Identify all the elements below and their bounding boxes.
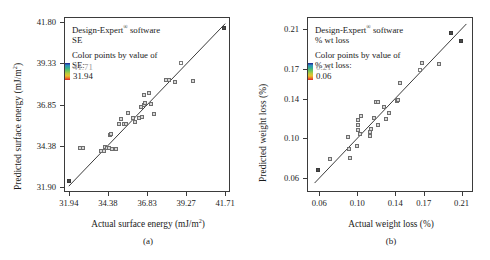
y-tick-label: 0.14: [267, 94, 299, 104]
y-tick-mark: [60, 105, 64, 106]
data-point: [356, 118, 360, 122]
data-point: [316, 168, 320, 172]
y-tick-mark: [60, 22, 64, 23]
x-tick-mark: [319, 192, 320, 196]
x-tick-mark: [186, 192, 187, 196]
data-point: [356, 123, 360, 127]
x-tick-label: 41.71: [205, 198, 245, 208]
data-point: [387, 111, 391, 115]
data-point: [347, 147, 351, 151]
data-point: [119, 117, 123, 121]
y-tick-mark: [303, 29, 307, 30]
x-tick-label: 0.06: [299, 198, 339, 208]
data-point: [459, 39, 463, 43]
x-tick-mark: [147, 192, 148, 196]
data-point: [173, 80, 177, 84]
x-tick-mark: [424, 192, 425, 196]
data-point: [382, 105, 386, 109]
data-point: [358, 132, 362, 136]
x-tick-mark: [69, 192, 70, 196]
data-point: [117, 122, 121, 126]
x-tick-label: 34.38: [88, 198, 128, 208]
y-tick-mark: [60, 187, 64, 188]
data-point: [109, 132, 113, 136]
data-point: [420, 61, 424, 65]
x-tick-mark: [395, 192, 396, 196]
x-tick-label: 0.10: [337, 198, 377, 208]
y-tick-label: 0.06: [267, 173, 299, 183]
x-tick-mark: [357, 192, 358, 196]
data-point: [398, 81, 402, 85]
x-tick-label: 0.21: [442, 198, 482, 208]
panel-a-fit-line: [0, 0, 245, 260]
x-tick-label: 0.17: [404, 198, 444, 208]
data-point: [143, 101, 147, 105]
data-point: [418, 68, 422, 72]
x-tick-label: 39.27: [166, 198, 206, 208]
x-tick-mark: [462, 192, 463, 196]
y-tick-mark: [60, 146, 64, 147]
data-point: [222, 26, 226, 30]
y-tick-mark: [303, 138, 307, 139]
data-point: [81, 146, 85, 150]
x-tick-mark: [108, 192, 109, 196]
data-point: [368, 134, 372, 138]
data-point: [114, 147, 118, 151]
data-point: [142, 93, 146, 97]
data-point: [133, 120, 137, 124]
data-point: [126, 111, 130, 115]
data-point: [384, 117, 388, 121]
y-tick-label: 36.85: [24, 100, 56, 110]
data-point: [191, 79, 195, 83]
data-point: [140, 115, 144, 119]
figure-container: Predicted surface energy (mJ/m2) Actual …: [0, 0, 490, 260]
data-point: [437, 62, 441, 66]
data-point: [179, 61, 183, 65]
y-tick-label: 31.90: [24, 182, 56, 192]
data-point: [355, 144, 359, 148]
x-tick-label: 36.83: [127, 198, 167, 208]
data-point: [124, 122, 128, 126]
data-point: [167, 78, 171, 82]
data-point: [376, 100, 380, 104]
data-point: [147, 91, 151, 95]
data-point: [376, 123, 380, 127]
data-point: [152, 112, 156, 116]
x-tick-mark: [225, 192, 226, 196]
data-point: [369, 127, 373, 131]
data-point: [346, 135, 350, 139]
data-point: [372, 116, 376, 120]
y-tick-label: 39.33: [24, 58, 56, 68]
data-point: [67, 179, 71, 183]
data-point: [149, 102, 153, 106]
data-point: [359, 114, 363, 118]
y-tick-mark: [60, 63, 64, 64]
data-point: [328, 157, 332, 161]
y-tick-label: 0.17: [267, 64, 299, 74]
y-tick-label: 0.10: [267, 133, 299, 143]
y-tick-mark: [303, 69, 307, 70]
panel-b: Predicted weight loss (%) Actual weight …: [245, 0, 490, 260]
data-point: [396, 98, 400, 102]
panel-a: Predicted surface energy (mJ/m2) Actual …: [0, 0, 245, 260]
data-point: [348, 156, 352, 160]
y-tick-label: 41.80: [24, 17, 56, 27]
y-tick-label: 0.21: [267, 24, 299, 34]
y-tick-mark: [303, 99, 307, 100]
x-tick-label: 31.94: [49, 198, 89, 208]
data-point: [449, 31, 453, 35]
y-tick-mark: [303, 178, 307, 179]
y-tick-label: 34.38: [24, 141, 56, 151]
